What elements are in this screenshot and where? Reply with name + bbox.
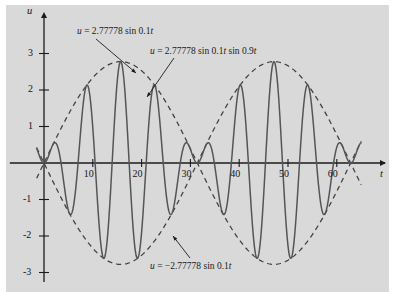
annotation-envelope-bottom: u = −2.77778 sin 0.1t bbox=[150, 261, 231, 271]
y-tick-label: 3 bbox=[28, 47, 33, 58]
y-tick-label: 1 bbox=[28, 120, 33, 131]
x-tick-label: 60 bbox=[328, 168, 338, 179]
y-axis-label: u bbox=[27, 5, 32, 16]
leader-envelope-top bbox=[96, 39, 136, 73]
y-tick-label: -2 bbox=[23, 229, 31, 240]
x-tick-label: 10 bbox=[84, 168, 94, 179]
annotation-envelope-top: u = 2.77778 sin 0.1t bbox=[77, 26, 153, 36]
y-tick-label: -3 bbox=[23, 266, 31, 277]
x-tick-label: 30 bbox=[181, 168, 191, 179]
leader-beat-curve-arrowhead bbox=[147, 92, 151, 97]
y-tick-label: 2 bbox=[28, 83, 33, 94]
x-tick-label: 40 bbox=[230, 168, 240, 179]
x-tick-label: 50 bbox=[279, 168, 289, 179]
axis-arrow bbox=[41, 12, 47, 18]
x-axis-label: t bbox=[380, 168, 383, 179]
plot-svg bbox=[0, 0, 399, 293]
axis-arrow bbox=[380, 160, 386, 166]
figure-container: 102030405060321-1-2-3 u t u = 2.77778 si… bbox=[0, 0, 399, 293]
annotation-beat-curve: u = 2.77778 sin 0.1t sin 0.9t bbox=[150, 46, 256, 56]
y-tick-label: -1 bbox=[23, 193, 31, 204]
x-tick-label: 20 bbox=[133, 168, 143, 179]
leader-beat-curve bbox=[147, 58, 174, 97]
